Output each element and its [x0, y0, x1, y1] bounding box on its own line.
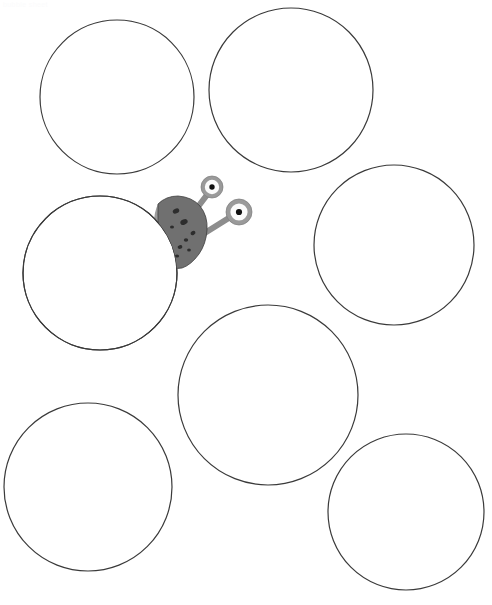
eye-lower-pupil	[236, 209, 242, 215]
circle-top-left	[40, 20, 194, 174]
creature-spot-7	[187, 249, 191, 252]
circle-middle-left	[23, 196, 177, 350]
circle-bottom-left	[4, 403, 172, 571]
shapes-svg	[0, 0, 492, 605]
circle-middle-right	[314, 165, 474, 325]
creature-spot-3	[170, 225, 174, 228]
eye-upper-pupil	[209, 184, 214, 189]
circle-bottom-center	[178, 305, 358, 485]
drawing-canvas: bubble sheet	[0, 0, 492, 605]
eye-lower	[226, 199, 252, 225]
eye-upper	[201, 176, 223, 198]
creature-spot-5	[184, 238, 188, 241]
creature-spot-8	[175, 254, 179, 257]
circle-top-right	[209, 8, 373, 172]
circles-group	[4, 8, 484, 590]
circle-bottom-right	[328, 434, 484, 590]
